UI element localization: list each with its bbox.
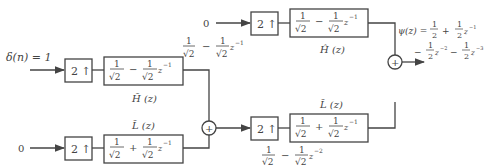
denominator: √2 [328, 129, 339, 139]
denominator: √2 [295, 24, 306, 34]
denominator: √2 [295, 129, 306, 139]
input-zero-bottom: 0 [18, 143, 24, 154]
input-delta-label: δ(n) = 1 [6, 51, 52, 64]
exponent: −1 [163, 61, 172, 68]
exponent: −3 [476, 45, 483, 51]
numerator: 1 [457, 20, 462, 29]
intermediate-expr-top: 1 √2 − 1 √2 z −1 [183, 36, 244, 59]
numerator: 1 [432, 20, 437, 29]
plus-icon: + [391, 57, 399, 68]
numerator: 1 [333, 116, 339, 126]
input-zero-top-right: 0 [203, 18, 209, 29]
z-var: z [434, 49, 439, 57]
z-var: z [470, 49, 475, 57]
connector [368, 102, 395, 128]
exponent: −2 [440, 45, 447, 51]
denominator: 2 [457, 31, 462, 40]
psi-lhs: ψ(z) = [398, 26, 427, 36]
exponent: −2 [314, 147, 323, 154]
operator: − [414, 47, 422, 57]
output-psi-expr: ψ(z) = 1 2 + 1 2 z −1 − 1 2 z −2 − 1 2 z… [398, 20, 483, 61]
connector [183, 70, 209, 122]
exponent: −1 [163, 139, 172, 146]
numerator: 1 [464, 41, 469, 50]
operator: − [129, 64, 137, 75]
numerator: 1 [300, 116, 306, 126]
upsampler-label: 2 ↑ [257, 123, 277, 136]
numerator: 1 [147, 59, 153, 69]
upsampler-label: 2 ↑ [71, 143, 91, 156]
denominator: √2 [262, 157, 273, 165]
numerator: 1 [147, 137, 153, 147]
connector [183, 134, 209, 148]
numerator: 1 [428, 41, 433, 50]
numerator: 1 [300, 11, 306, 21]
operator: + [129, 142, 137, 153]
operator: − [315, 16, 323, 27]
operator: − [450, 47, 458, 57]
denominator: √2 [328, 24, 339, 34]
denominator: 2 [464, 52, 469, 61]
numerator: 1 [299, 145, 305, 155]
numerator: 1 [266, 145, 272, 155]
numerator: 1 [186, 36, 192, 46]
l-synthesis-label: L̃ (z) [319, 99, 343, 110]
denominator: √2 [109, 150, 120, 160]
upsampler-label: 2 ↑ [71, 65, 91, 78]
denominator: √2 [142, 150, 153, 160]
connector [368, 23, 395, 55]
denominator: 2 [428, 52, 433, 61]
denominator: √2 [216, 49, 227, 59]
numerator: 1 [114, 137, 120, 147]
filter-bank-diagram: δ(n) = 1 2 ↑ 1 √2 − 1 √2 z −1 H̃ (z) 1 √… [0, 0, 499, 165]
denominator: 2 [432, 31, 437, 40]
exponent: −1 [235, 39, 244, 46]
exponent: −1 [349, 13, 358, 20]
operator: − [281, 150, 289, 161]
intermediate-expr-mid: 1 √2 − 1 √2 z −2 [262, 145, 323, 165]
exponent: −1 [469, 24, 476, 30]
z-var: z [463, 28, 468, 36]
operator: − [202, 41, 210, 52]
l-tilde-label: L̃ (z) [131, 120, 155, 131]
operator: + [442, 26, 450, 36]
denominator: √2 [295, 157, 306, 165]
operator: + [315, 121, 323, 132]
denominator: √2 [142, 72, 153, 82]
denominator: √2 [109, 72, 120, 82]
upsampler-label: 2 ↑ [257, 18, 277, 31]
numerator: 1 [220, 36, 226, 46]
exponent: −1 [349, 118, 358, 125]
numerator: 1 [333, 11, 339, 21]
h-synthesis-label: Ĥ (z) [319, 44, 345, 55]
h-tilde-label: H̃ (z) [131, 93, 157, 104]
numerator: 1 [114, 59, 120, 69]
denominator: √2 [183, 49, 194, 59]
plus-icon: + [205, 123, 213, 134]
